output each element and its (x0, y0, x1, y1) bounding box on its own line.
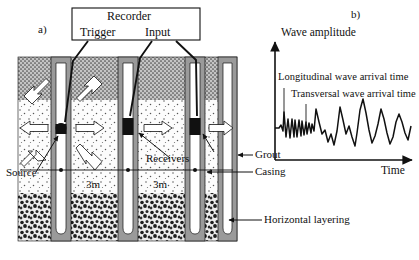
borehole-source (51, 57, 71, 241)
transversal-arrival-label: Transversal wave arrival time (291, 88, 416, 99)
source-label: Source (6, 166, 37, 178)
receivers-label: Receivers (146, 152, 189, 164)
right-edge-borehole (218, 57, 237, 241)
grout-label: Grout (255, 148, 281, 160)
figure-canvas (0, 0, 419, 260)
wave-amplitude-axis-label: Wave amplitude (281, 26, 356, 38)
figure-root: a) b) Recorder Trigger Input Source Rece… (0, 0, 419, 260)
panel-b-label: b) (351, 8, 360, 20)
panel-a-label: a) (38, 23, 47, 35)
waveform-trace (275, 99, 411, 146)
recorder-input-label[interactable]: Input (145, 25, 170, 40)
horizontal-layering-label: Horizontal layering (264, 213, 350, 225)
borehole-receiver-2 (185, 57, 205, 241)
recorder-title: Recorder (107, 9, 151, 24)
time-axis-label: Time (381, 164, 405, 176)
spacing-label-2: 3m (153, 178, 167, 190)
spacing-label-1: 3m (86, 178, 100, 190)
recorder-trigger-label[interactable]: Trigger (80, 25, 116, 40)
longitudinal-arrival-label: Longitudinal wave arrival time (278, 71, 408, 82)
receiver-1 (123, 118, 134, 135)
source-point (56, 123, 67, 133)
casing-label: Casing (255, 165, 286, 177)
receiver-2 (190, 118, 201, 135)
